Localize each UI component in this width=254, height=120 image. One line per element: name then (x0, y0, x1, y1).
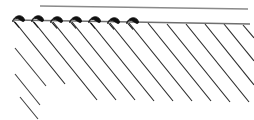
figure-canvas (0, 0, 254, 120)
technical-drawing-svg (0, 0, 254, 120)
